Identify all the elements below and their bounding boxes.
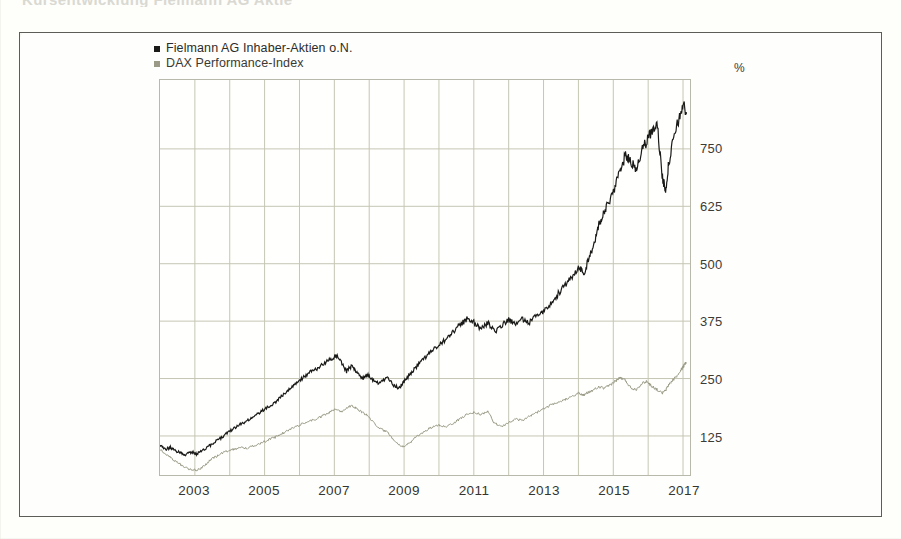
chart-frame: Fielmann AG Inhaber-Aktien o.N. DAX Perf… [19, 32, 882, 517]
y-axis-tick-label: 750 [700, 141, 723, 156]
x-axis-tick-label: 2013 [528, 483, 560, 498]
page-root: Kursentwicklung Fielmann AG Aktie Fielma… [0, 0, 901, 539]
y-gridlines [160, 149, 690, 436]
y-axis-tick-label: 375 [700, 314, 723, 329]
x-gridlines [195, 80, 683, 475]
series-line-fielmann [160, 102, 687, 456]
legend-item-dax: DAX Performance-Index [154, 56, 353, 71]
x-axis-tick-label: 2007 [318, 483, 350, 498]
legend-label-dax: DAX Performance-Index [166, 56, 304, 71]
cut-off-heading: Kursentwicklung Fielmann AG Aktie [22, 0, 582, 7]
legend-item-fielmann: Fielmann AG Inhaber-Aktien o.N. [154, 41, 353, 56]
legend-label-fielmann: Fielmann AG Inhaber-Aktien o.N. [166, 41, 353, 56]
chart-svg [160, 80, 690, 475]
square-marker-icon [154, 46, 160, 52]
chart-legend: Fielmann AG Inhaber-Aktien o.N. DAX Perf… [154, 41, 353, 71]
x-axis-tick-label: 2009 [388, 483, 420, 498]
x-axis-tick-label: 2015 [598, 483, 630, 498]
plot-area [159, 79, 691, 476]
x-axis-tick-label: 2017 [668, 483, 700, 498]
y-axis-tick-label: 250 [700, 372, 723, 387]
y-axis-unit-label: % [734, 61, 745, 75]
y-axis-tick-label: 500 [700, 256, 723, 271]
y-axis-tick-label: 125 [700, 429, 723, 444]
x-axis-tick-label: 2011 [459, 483, 490, 498]
x-axis-tick-label: 2005 [248, 483, 280, 498]
square-marker-icon [154, 61, 160, 67]
y-axis-tick-label: 625 [700, 198, 723, 213]
x-axis-tick-label: 2003 [178, 483, 210, 498]
